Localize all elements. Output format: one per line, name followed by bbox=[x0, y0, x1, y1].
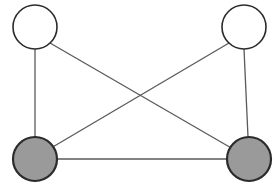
edge-layer bbox=[35, 43, 248, 159]
node-bottom-right bbox=[227, 137, 271, 181]
node-top-left bbox=[13, 5, 57, 49]
edge-top-right-to-bottom-right bbox=[244, 49, 248, 137]
graph-canvas bbox=[0, 0, 276, 196]
node-bottom-left bbox=[13, 137, 57, 181]
node-top-right bbox=[222, 5, 266, 49]
node-layer bbox=[13, 5, 271, 181]
graph-diagram bbox=[0, 0, 276, 196]
